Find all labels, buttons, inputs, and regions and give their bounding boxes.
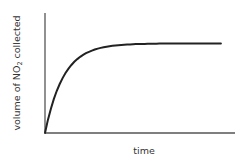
- x-axis-label: time: [133, 145, 154, 156]
- chart-canvas: [0, 0, 248, 164]
- y-axis-label: volume of NO2 collected: [11, 15, 22, 130]
- data-curve: [45, 44, 221, 134]
